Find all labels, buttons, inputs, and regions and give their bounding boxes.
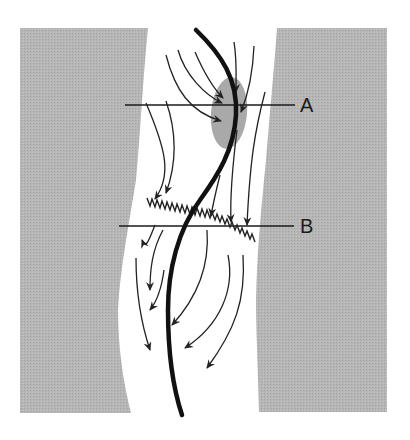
label-b: B <box>300 215 313 237</box>
channel-diagram: A B <box>0 0 410 440</box>
left-bank <box>20 28 148 413</box>
right-bank <box>256 28 387 412</box>
label-a: A <box>300 94 314 116</box>
zigzag-line <box>147 198 255 242</box>
